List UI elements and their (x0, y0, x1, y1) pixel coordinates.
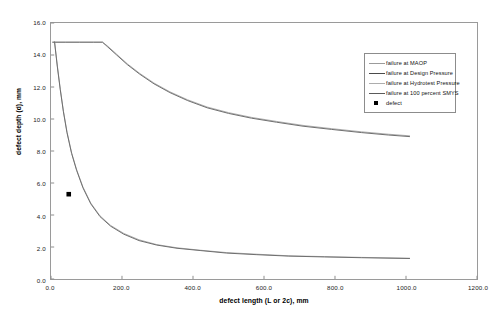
legend-item-label: failure at Design Pressure (386, 70, 453, 76)
y-axis-title: defect depth (d), mm (15, 42, 22, 202)
legend-item: failure at Hydrotest Pressure (368, 78, 451, 88)
x-tick-label: 600.0 (242, 284, 286, 291)
legend-item-label: failure at MAOP (386, 60, 427, 66)
line-icon (369, 73, 385, 74)
x-tick-label: 0.0 (28, 284, 72, 291)
square-icon (374, 101, 378, 105)
y-tick-label: 0.0 (12, 277, 46, 284)
legend-item-label: failure at 100 percent SMYS (386, 90, 459, 96)
y-tick-label: 16.0 (12, 19, 46, 26)
legend-line-icon (368, 68, 385, 78)
x-tick-label: 200.0 (99, 284, 143, 291)
legend-item-label: failure at Hydrotest Pressure (386, 80, 460, 86)
legend-item: failure at Design Pressure (368, 68, 451, 78)
x-tick-label: 1200.0 (456, 284, 498, 291)
legend-line-icon (368, 58, 385, 68)
legend-square-marker-icon (368, 98, 385, 108)
legend-line-icon (368, 78, 385, 88)
x-tick-label: 1000.0 (385, 284, 429, 291)
plot-area: failure at MAOPfailure at Design Pressur… (50, 22, 478, 280)
line-icon (369, 83, 385, 84)
x-tick-label: 400.0 (171, 284, 215, 291)
chart-legend: failure at MAOPfailure at Design Pressur… (364, 53, 456, 113)
legend-item: defect (368, 98, 451, 108)
x-axis-title: defect length (L or 2c), mm (50, 297, 478, 304)
y-tick-label: 2.0 (12, 244, 46, 251)
line-icon (369, 93, 385, 94)
legend-item: failure at MAOP (368, 58, 451, 68)
chart-figure: 0.02.04.06.08.010.012.014.016.0 defect d… (0, 0, 498, 321)
x-axis-tick-labels: 0.0200.0400.0600.0800.01000.01200.0 (50, 284, 478, 298)
legend-item-label: defect (386, 100, 402, 106)
legend-item: failure at 100 percent SMYS (368, 88, 451, 98)
line-icon (369, 63, 385, 64)
y-tick-label: 4.0 (12, 212, 46, 219)
legend-line-icon (368, 88, 385, 98)
x-tick-label: 800.0 (313, 284, 357, 291)
